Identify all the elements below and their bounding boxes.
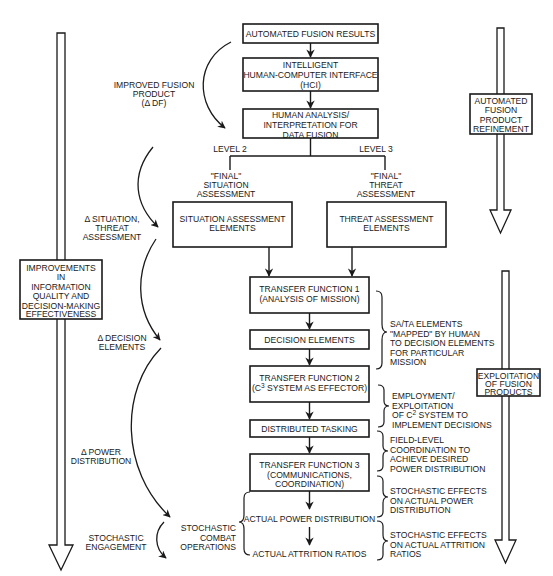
right-exploitation-arrow: EXPLOITATION OF FUSION PRODUCTS [477,271,540,563]
box-label: DISTRIBUTED TASKING [261,424,358,434]
annotation-stochastic-attrition: STOCHASTIC EFFECTS ON ACTUAL ATTRITION R… [377,521,487,560]
box-label-line: HUMAN ANALYSIS/ [272,110,350,120]
label-line: DISTRIBUTION [390,505,451,515]
label-line: EMPLOYMENT/ [392,391,455,401]
right-top-label-line: REFINEMENT [473,124,530,134]
curved-arrow-delta-power [131,348,170,517]
label-line: SA/TA ELEMENTS [390,319,463,329]
curved-arrow-improved-fusion [203,42,231,128]
box-label-line: TRANSFER FUNCTION 1 [259,284,359,294]
label-line: COMBAT [200,533,237,543]
annotation-sa-ta-mapping: SA/TA ELEMENTS "MAPPED" BY HUMAN TO DECI… [376,291,495,369]
label-line: TO DECISION ELEMENTS [390,338,495,348]
box-situation-assessment-elements: SITUATION ASSESSMENT ELEMENTS [173,202,292,247]
label-line: ELEMENTS [99,342,146,352]
level-branch-connector [230,138,385,170]
box-hci: INTELLIGENT HUMAN-COMPUTER INTERFACE (HC… [243,58,378,91]
curved-arrow-delta-decision [141,239,160,340]
box-label: AUTOMATED FUSION RESULTS [246,29,376,39]
label-line: ASSESSMENT [197,189,256,199]
label-line: OF C2 SYSTEM TO [392,409,468,420]
label-line: ON ACTUAL POWER [390,496,473,506]
label-line: (Δ DF) [142,98,167,108]
label-line: ENGAGEMENT [85,542,147,552]
box-transfer-function-3: TRANSFER FUNCTION 3 (COMMUNICATIONS, COO… [250,454,369,491]
actual-attrition-ratios: ACTUAL ATTRITION RATIOS [253,549,367,559]
label-delta-power-distribution: Δ POWER DISTRIBUTION [71,447,132,466]
right-bottom-label-line: PRODUCTS [484,387,532,397]
left-arrow-label-line: IN [57,272,66,282]
box-automated-fusion-results: AUTOMATED FUSION RESULTS [243,24,378,43]
box-label-line: (COMMUNICATIONS, [267,470,352,480]
box-label-line: TRANSFER FUNCTION 3 [259,460,359,470]
label-line: STOCHASTIC EFFECTS [390,530,487,540]
label-line: "MAPPED" BY HUMAN [390,329,480,339]
label-improved-fusion-product: IMPROVED FUSION PRODUCT (Δ DF) [114,80,195,108]
label-line: IMPLEMENT DECISIONS [392,420,492,430]
label-stochastic-engagement: STOCHASTIC ENGAGEMENT [85,533,147,552]
label-line: ASSESSMENT [83,232,142,242]
box-label-line: ELEMENTS [209,223,256,233]
label-line: ASSESSMENT [357,189,416,199]
label-delta-situation-threat: Δ SITUATION, THREAT ASSESSMENT [83,214,142,242]
stochastic-combat-operations-label: STOCHASTIC COMBAT OPERATIONS [180,523,236,552]
left-arrow-label-line: EFFECTIVENESS [26,309,97,319]
level-3-label: LEVEL 3 [359,144,393,154]
label-line: ACHIEVE DESIRED [390,454,468,464]
box-label-line: (C3 SYSTEM AS EFFECTOR) [252,382,367,393]
label-line: FOR PARTICULAR [390,348,464,358]
actual-power-distribution: ACTUAL POWER DISTRIBUTION [244,514,375,524]
label-line: STOCHASTIC [181,523,236,533]
final-situation-assessment-label: "FINAL" SITUATION ASSESSMENT [197,171,256,199]
curved-arrow-delta-situation [138,147,158,227]
label-delta-decision-elements: Δ DECISION ELEMENTS [97,333,146,352]
box-distributed-tasking: DISTRIBUTED TASKING [250,420,369,437]
right-refinement-arrow: AUTOMATED FUSION PRODUCT REFINEMENT [470,28,532,233]
fusion-decision-flow-diagram: IMPROVEMENTS IN INFORMATION QUALITY AND … [0,0,553,576]
annotation-employment-exploitation: EMPLOYMENT/ EXPLOITATION OF C2 SYSTEM TO… [378,385,492,430]
level-2-label: LEVEL 2 [213,144,247,154]
box-human-analysis: HUMAN ANALYSIS/ INTERPRETATION FOR DATA … [243,109,378,140]
label-line: RATIOS [390,549,422,559]
box-label: DECISION ELEMENTS [264,335,355,345]
annotation-field-level-coordination: FIELD-LEVEL COORDINATION TO ACHIEVE DESI… [377,431,486,474]
label-line: ON ACTUAL ATTRITION [390,540,485,550]
label-line: MISSION [390,357,426,367]
box-transfer-function-1: TRANSFER FUNCTION 1 (ANALYSIS OF MISSION… [250,277,369,313]
left-arrow-label-line: INFORMATION [31,282,91,292]
label-line: STOCHASTIC EFFECTS [390,486,487,496]
label-line: OPERATIONS [180,542,236,552]
left-arrow-label-line: QUALITY AND [33,291,90,301]
annotation-stochastic-power: STOCHASTIC EFFECTS ON ACTUAL POWER DISTR… [377,476,487,517]
label-line: POWER DISTRIBUTION [390,464,486,474]
curved-arrow-stochastic-engagement [157,522,166,558]
box-decision-elements: DECISION ELEMENTS [250,330,369,349]
box-label-line: INTELLIGENT [283,60,339,70]
box-threat-assessment-elements: THREAT ASSESSMENT ELEMENTS [327,202,446,247]
box-transfer-function-2: TRANSFER FUNCTION 2 (C3 SYSTEM AS EFFECT… [250,366,369,402]
label-line: FIELD-LEVEL [390,435,444,445]
box-label-line: (HCI) [300,80,321,90]
box-label-line: INTERPRETATION FOR [263,120,357,130]
right-top-label-line: FUSION [485,105,517,115]
left-improvements-arrow: IMPROVEMENTS IN INFORMATION QUALITY AND … [20,33,102,570]
box-label-line: COORDINATION) [275,479,344,489]
final-threat-assessment-label: "FINAL" THREAT ASSESSMENT [357,171,416,199]
box-label-line: HUMAN-COMPUTER INTERFACE [243,70,377,80]
label-line: COORDINATION TO [390,445,471,455]
label-line: DISTRIBUTION [71,456,132,466]
box-label-line: TRANSFER FUNCTION 2 [259,373,359,383]
box-label-line: ELEMENTS [363,223,410,233]
box-label-line: (ANALYSIS OF MISSION) [259,294,359,304]
label-line: EXPLOITATION [392,401,453,411]
